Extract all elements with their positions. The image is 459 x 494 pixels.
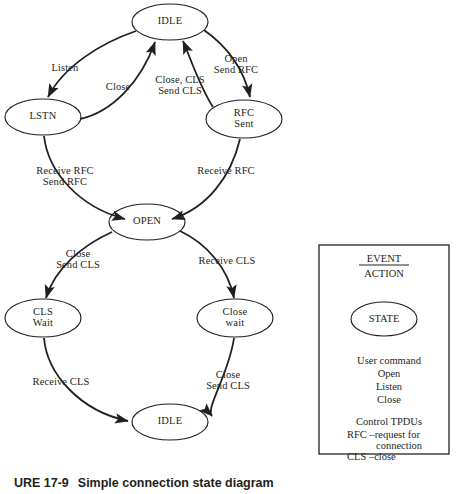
legend-item-close: Close <box>334 394 444 405</box>
figure-caption: URE 17-9Simple connection state diagram <box>0 462 274 494</box>
legend-item-rfc-continuation: connection <box>376 440 456 451</box>
legend-action-label: ACTION <box>344 268 424 279</box>
edge-label-receive-rfc: Receive RFC <box>180 165 272 176</box>
figure-caption-number: URE 17-9 <box>14 476 69 490</box>
legend-item-cls: CLS –close <box>347 451 451 462</box>
legend-item-open: Open <box>334 368 444 379</box>
state-label-idle-top: IDLE <box>132 15 208 26</box>
state-label-lstn: LSTN <box>5 110 81 121</box>
edge-label-receive-cls-open-closewait: Receive CLS <box>182 255 272 266</box>
edge-label-close-cls-send-cls: Close, CLS Send CLS <box>138 74 222 97</box>
legend-group-heading-user-command: User command <box>334 355 444 366</box>
legend-item-listen: Listen <box>334 381 444 392</box>
edge-label-open-send-rfc: Open Send RFC <box>200 53 272 76</box>
legend-item-rfc: RFC –request for <box>347 429 451 440</box>
transition-arc-receive-rfc <box>172 139 240 219</box>
state-label-idle-bottom: IDLE <box>132 415 208 426</box>
edge-label-receive-cls-clswait-idle: Receive CLS <box>15 376 107 387</box>
state-label-cls-wait: CLS Wait <box>5 306 81 329</box>
state-label-close-wait: Close wait <box>197 306 273 329</box>
state-label-open: OPEN <box>109 215 185 226</box>
edge-label-close-send-cls-closewait-idle: Close Send CLS <box>190 369 266 392</box>
edge-label-close-send-cls-open-clswait: Close Send CLS <box>40 248 116 271</box>
figure-caption-text: Simple connection state diagram <box>78 476 274 490</box>
state-label-rfc-sent: RFC Sent <box>206 107 282 130</box>
legend-state-label: STATE <box>344 313 424 324</box>
edge-label-listen: Listen <box>35 62 95 73</box>
edge-label-receive-rfc-send-rfc: Receive RFC Send RFC <box>20 165 110 188</box>
legend-group-heading-control-tpdus: Control TPDUs <box>334 416 444 427</box>
legend-event-label: EVENT <box>344 253 424 264</box>
